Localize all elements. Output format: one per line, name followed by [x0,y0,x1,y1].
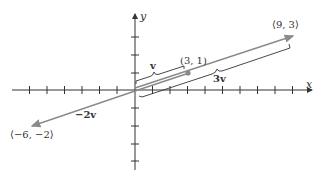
vector-label-v: v [150,61,156,71]
vector-label-neg-2v: −2v [75,110,96,120]
point-label-9-3: ⟨9, 3⟩ [272,20,299,30]
point-3-1 [185,70,190,75]
x-axis-label: x [306,79,312,90]
vector-v [135,70,191,91]
vector-label-3v: 3v [213,74,226,84]
point-label-neg6-neg2: ⟨−6, −2⟩ [10,130,54,140]
brace-3v [139,44,290,97]
point-label-3-1: (3, 1) [180,56,207,66]
brace-v [136,66,184,84]
y-axis-label: y [140,11,146,22]
vector-scaling-diagram: y x ⟨9, 3⟩ (3, 1) ⟨−6, −2⟩ v 3v −2v [0,0,321,172]
